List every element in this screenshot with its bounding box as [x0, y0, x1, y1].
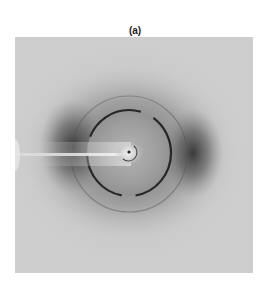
beam-stop-arm — [15, 153, 129, 156]
diffraction-pattern-image — [15, 37, 253, 273]
center-dot — [127, 150, 130, 153]
figure-label: (a) — [0, 25, 270, 37]
